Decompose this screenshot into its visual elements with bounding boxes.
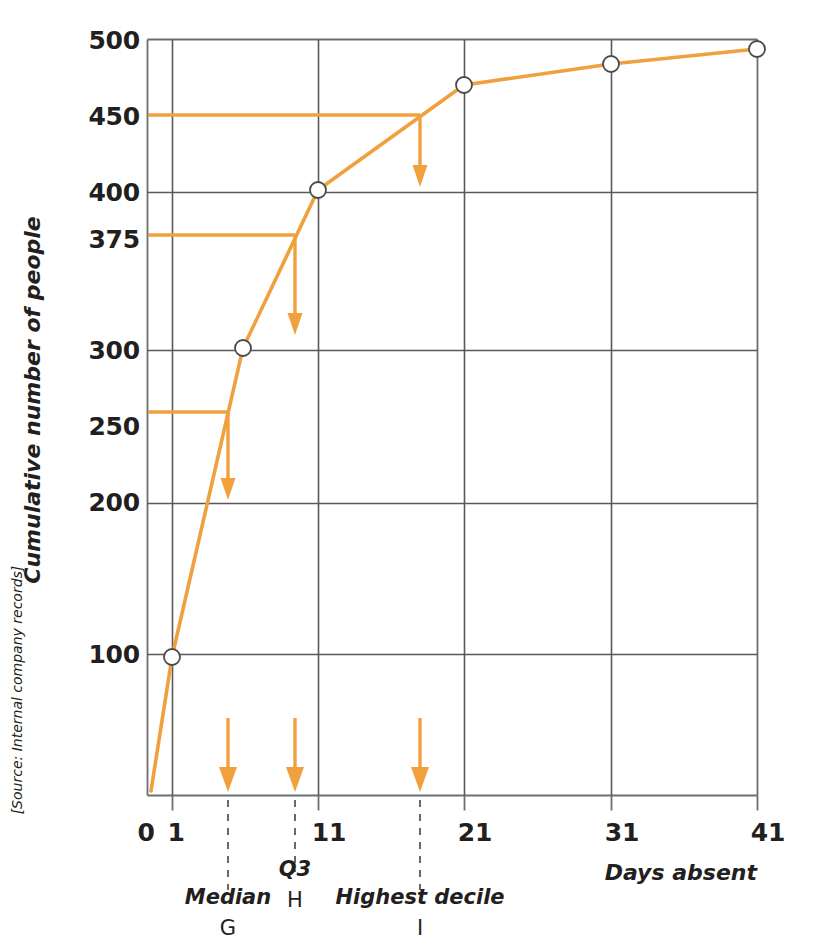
y-tick-375: 375: [88, 225, 140, 254]
source-note: [Source: Internal company records]: [9, 566, 25, 815]
data-series-line: [151, 49, 757, 791]
y-tick-250: 250: [88, 412, 140, 441]
x-axis-ticks: [173, 796, 758, 811]
data-point-6[interactable]: [749, 41, 765, 57]
data-point-2[interactable]: [235, 340, 251, 356]
data-point-3[interactable]: [310, 182, 326, 198]
data-point-1[interactable]: [164, 649, 180, 665]
cumulative-frequency-chart: 500 450 400 375 300 250 200 100: [0, 0, 840, 949]
x-tick-0: 0: [137, 818, 154, 847]
plot-frame: [148, 40, 758, 796]
y-tick-300: 300: [88, 336, 140, 365]
data-point-4[interactable]: [456, 77, 472, 93]
y-tick-500: 500: [88, 26, 140, 55]
y-axis-tick-labels: 500 450 400 375 300 250 200 100: [88, 26, 140, 669]
pointer-arrowhead-highest-decile: [411, 767, 429, 792]
x-tick-31: 31: [605, 818, 639, 847]
y-tick-100: 100: [88, 640, 140, 669]
y-tick-450: 450: [88, 102, 140, 131]
cumulative-curve: [151, 49, 757, 791]
annotation-letter-q3: H: [287, 888, 303, 912]
data-point-5[interactable]: [603, 56, 619, 72]
percentile-guides: [148, 115, 428, 500]
x-axis-title: Days absent: [605, 860, 759, 885]
x-axis-pointer-arrows: [219, 718, 429, 792]
x-tick-11: 11: [312, 818, 346, 847]
y-tick-200: 200: [88, 488, 140, 517]
annotation-labels: Median G Q3 H Highest decile I: [185, 857, 505, 940]
vertical-gridlines: [173, 40, 612, 796]
horizontal-gridlines: [148, 193, 758, 655]
annotation-label-q3: Q3: [279, 857, 311, 881]
guide-arrowhead-median: [221, 478, 236, 500]
annotation-letter-highest-decile: I: [417, 916, 423, 940]
x-tick-41: 41: [751, 818, 785, 847]
x-tick-21: 21: [458, 818, 492, 847]
guide-arrowhead-q3: [288, 313, 303, 335]
annotation-letter-median: G: [220, 916, 236, 940]
annotation-label-median: Median: [185, 885, 272, 909]
x-tick-1: 1: [167, 818, 184, 847]
chart-figure: 500 450 400 375 300 250 200 100: [0, 0, 840, 949]
x-axis-tick-labels: 0 1 11 21 31 41: [137, 818, 785, 847]
pointer-arrowhead-q3: [286, 767, 304, 792]
y-tick-400: 400: [88, 178, 140, 207]
pointer-arrowhead-median: [219, 767, 237, 792]
guide-arrowhead-highest-decile: [413, 165, 428, 187]
y-axis-title: Cumulative number of people: [20, 216, 45, 584]
annotation-label-highest-decile: Highest decile: [335, 885, 504, 909]
